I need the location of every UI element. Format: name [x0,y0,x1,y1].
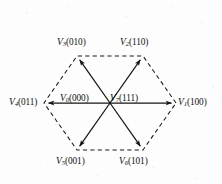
vector-label-v6: V6(101) [119,157,148,167]
vector-label-v1: V1(100) [178,98,207,108]
vector-label-v3: V3(010) [57,38,86,48]
vector-label-v7: V7(111) [110,94,138,104]
figure-canvas: V1(100) V2(110) V3(010) V4(011) V5(001) … [0,0,222,184]
vector-state-v4: (011) [18,97,37,107]
vector-state-v2: (110) [129,37,148,47]
vector-state-v3: (010) [66,37,86,47]
vector-state-v5: (001) [65,156,85,166]
vector-label-v2: V2(110) [120,38,148,48]
vector-arrow-v5 [80,103,110,146]
vector-label-v0: V0(000) [60,94,89,104]
vector-state-v0: (000) [69,93,89,103]
vector-state-v1: (100) [187,97,207,107]
space-vector-hexagon-diagram [0,0,222,184]
vector-state-v6: (101) [128,156,148,166]
vector-state-v7: (111) [119,93,138,103]
vector-arrow-v6 [110,103,140,146]
vector-label-v5: V5(001) [56,157,85,167]
vector-label-v4: V4(011) [9,98,37,108]
